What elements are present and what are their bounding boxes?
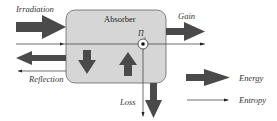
loss-energy-arrow bbox=[145, 83, 162, 118]
irradiation-label: Irradiation bbox=[16, 4, 54, 14]
reflection-entropy-line bbox=[18, 70, 66, 73]
absorber-title: Absorber bbox=[104, 14, 136, 24]
gain-label: Gain bbox=[178, 11, 195, 21]
legend-entropy-arrow bbox=[187, 99, 229, 102]
entropy-source-icon bbox=[138, 39, 148, 49]
legend-energy-arrow bbox=[186, 69, 230, 86]
entropy-source-label: Πs bbox=[138, 29, 146, 40]
reflection-energy-arrow bbox=[16, 51, 66, 65]
irradiation-energy-arrow bbox=[16, 15, 66, 39]
reflection-label: Reflection bbox=[29, 74, 63, 84]
absorber-diagram bbox=[0, 0, 277, 121]
loss-label: Loss bbox=[120, 97, 136, 107]
legend-entropy-label: Entropy bbox=[239, 95, 266, 105]
gain-energy-arrow bbox=[166, 22, 205, 41]
legend-energy-label: Energy bbox=[239, 73, 263, 83]
